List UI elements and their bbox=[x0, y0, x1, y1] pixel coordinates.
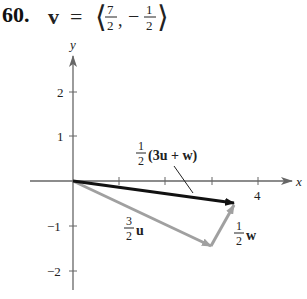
leader-line bbox=[174, 166, 193, 193]
label-half-w: 1 2 w bbox=[234, 219, 257, 248]
svg-text:1: 1 bbox=[138, 139, 144, 153]
label-three-halves-u: 3 2 u bbox=[124, 214, 144, 243]
equals-sign: = bbox=[70, 4, 82, 29]
svg-text:u: u bbox=[136, 223, 144, 238]
x-tick-4: 4 bbox=[254, 188, 261, 203]
y-tick-1: 1 bbox=[57, 129, 64, 144]
y-sign: − bbox=[128, 5, 139, 27]
svg-text:,: , bbox=[118, 10, 123, 30]
vectors bbox=[73, 181, 234, 246]
y-numerator: 1 bbox=[146, 2, 153, 17]
label-half-3u-plus-w: 1 2 (3u + w) bbox=[136, 139, 198, 193]
vector-definition: v = ⟨ 7 2 , − 1 2 ⟩ bbox=[48, 0, 169, 33]
vector-v-symbol: v bbox=[48, 4, 59, 29]
y-tick-neg2: −2 bbox=[47, 264, 61, 279]
svg-text:2: 2 bbox=[236, 234, 242, 248]
axes: y x 4 2 1 −1 −2 bbox=[30, 37, 302, 290]
right-angle-bracket: ⟩ bbox=[157, 0, 169, 33]
svg-text:(3u + w): (3u + w) bbox=[148, 148, 198, 164]
x-denominator: 2 bbox=[107, 18, 114, 33]
vector-half-w bbox=[211, 205, 234, 246]
x-numerator: 7 bbox=[107, 2, 114, 17]
y-tick-neg1: −1 bbox=[47, 219, 61, 234]
svg-text:1: 1 bbox=[236, 219, 242, 233]
svg-text:3: 3 bbox=[126, 214, 132, 228]
svg-text:w: w bbox=[246, 228, 257, 243]
svg-text:2: 2 bbox=[126, 229, 132, 243]
y-denominator: 2 bbox=[146, 18, 153, 33]
y-axis-label: y bbox=[68, 37, 76, 52]
svg-text:2: 2 bbox=[138, 154, 144, 168]
vector-diagram: v = ⟨ 7 2 , − 1 2 ⟩ y x 4 2 1 −1 −2 bbox=[0, 0, 307, 299]
y-tick-2: 2 bbox=[57, 85, 64, 100]
x-axis-label: x bbox=[295, 174, 302, 189]
